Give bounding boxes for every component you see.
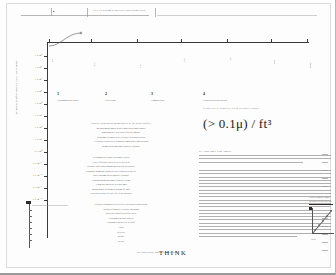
inset-chart-subtitle: Measured across nine lots xyxy=(309,200,332,202)
edge-mark xyxy=(322,242,328,243)
x-tick xyxy=(181,39,182,43)
annotation-line: Process equipment selected for low parti… xyxy=(47,203,195,206)
body-paragraph-1: IT AND NOT THE TRUE xyxy=(199,150,331,165)
tick-marker-c xyxy=(155,8,156,17)
x-tick xyxy=(227,39,228,43)
y-tick-label: 1 × 10² xyxy=(19,126,42,129)
x-tick-label: 0.5 xyxy=(93,62,96,66)
annotation-line: Sampling rate: one cubic foot per minute xyxy=(47,131,195,134)
callout-caption: Filter stage xyxy=(105,99,116,102)
annotation-line: Pressure differential maintained across … xyxy=(31,165,191,168)
callout-caption: Contamination source xyxy=(57,99,79,102)
y-tick-label: 1 × 10⁰ xyxy=(19,150,42,153)
callout-number: 1 xyxy=(57,91,59,96)
mini-axis-baseline xyxy=(32,205,68,206)
inset-chart-title: Yield vs. particle count xyxy=(309,196,329,198)
chart-curve-marker xyxy=(47,30,107,48)
annotation-line: Readings averaged over a twenty-four hou… xyxy=(47,136,195,139)
x-tick-label: 1000 xyxy=(309,62,312,68)
x-tick-label: 0.1 xyxy=(51,58,54,62)
y-tick-label: 1 × 10³ xyxy=(19,114,42,117)
y-tick-label: 1 × 10⁷ xyxy=(19,66,42,69)
edge-mark xyxy=(322,234,328,235)
mini-axis-tick xyxy=(29,222,32,223)
annotation-line: Alarm threshold set at class limit xyxy=(31,183,191,186)
y-tick xyxy=(44,56,48,57)
callout-number: 4 xyxy=(203,91,205,96)
top-caption: CLEAN ROOM PARTICLE DISTRIBUTION xyxy=(93,9,146,12)
mini-axis-tick xyxy=(29,228,32,229)
annotation-line: Materials qualified before entry xyxy=(47,212,195,215)
mini-axis-tick xyxy=(29,240,32,241)
inset-chart: Yield vs. particle count Measured across… xyxy=(307,200,336,242)
callout-caption: Laminar flow xyxy=(151,99,165,102)
x-tick-label: 1.0 xyxy=(139,64,142,68)
stagger-annotation-block: Air changes per hour at design velocity … xyxy=(31,156,191,195)
edge-mark xyxy=(322,178,328,179)
y-tick xyxy=(44,80,48,81)
annotation-line: Room operating under positive pressure xyxy=(47,145,195,148)
mini-axis-tick xyxy=(29,210,32,211)
callout-caption: Controlled work station xyxy=(203,99,227,102)
rule-top-left xyxy=(21,15,149,16)
tick-marker-a xyxy=(51,8,52,16)
annotation-line: Personnel garments laundered in a contro… xyxy=(31,170,191,173)
edge-mark xyxy=(322,250,328,251)
x-tick-label: 5.0 xyxy=(183,58,186,62)
center-annotation-block: Particle concentration measured at the w… xyxy=(47,122,195,148)
annotation-line: Training required for all staff xyxy=(47,221,195,224)
lower-annotation-block: Process equipment selected for low parti… xyxy=(47,203,195,243)
inset-data-line xyxy=(312,207,335,234)
headline-kicker: PARTICLE COUNT PER CUBIC FOOT xyxy=(203,107,259,110)
y-tick xyxy=(44,104,48,105)
edge-mark xyxy=(322,218,328,219)
annotation-line: Particle concentration measured at the w… xyxy=(47,122,195,125)
x-tick xyxy=(271,39,272,43)
y-tick-label: 1 × 10⁸ xyxy=(19,54,42,57)
rule-top-right xyxy=(157,15,317,16)
page-headline: (> 0.1μ) / ft³ xyxy=(203,116,272,132)
inset-x-axis-label: count xyxy=(311,238,316,240)
annotation-line: Filter efficiency rated at 99.97 per cen… xyxy=(31,161,191,164)
annotation-line: Measurements made with a light-scatterin… xyxy=(47,127,195,130)
document-page: CLEAN ROOM PARTICLE DISTRIBUTION ■ 0.1 0… xyxy=(0,0,336,275)
edge-mark xyxy=(322,170,328,171)
y-axis-title: Particles per cubic foot equal to or gre… xyxy=(15,61,17,114)
annotation-line: Records retained for the life of the pro… xyxy=(31,192,191,195)
body-lead: IT AND NOT THE TRUE xyxy=(199,150,331,153)
annotation-line: Report xyxy=(47,235,195,238)
annotation-line: Continuous monitoring of particle count xyxy=(31,179,191,182)
x-tick xyxy=(307,39,308,43)
x-tick-label: 10 xyxy=(229,57,232,60)
y-tick xyxy=(44,116,48,117)
annotation-line: Audit xyxy=(47,226,195,229)
y-tick xyxy=(44,68,48,69)
annotation-line: Air changes per hour at design velocity xyxy=(31,156,191,159)
y-tick-label: 1 × 10⁶ xyxy=(19,78,42,81)
x-tick xyxy=(137,39,138,43)
annotation-line: Surfaces finished to reduce shedding xyxy=(47,208,195,211)
y-tick xyxy=(44,92,48,93)
think-wordmark: THINK xyxy=(159,249,187,256)
tick-marker-b xyxy=(87,8,88,17)
callout-number: 3 xyxy=(151,91,153,96)
y-tick-label: 1 × 10⁴ xyxy=(19,102,42,105)
y-tick-label: 1 × 10¹ xyxy=(19,138,42,141)
mini-axis-tick xyxy=(29,216,32,217)
annotation-line: Review xyxy=(47,231,195,234)
page-sheet: CLEAN ROOM PARTICLE DISTRIBUTION ■ 0.1 0… xyxy=(6,3,331,268)
annotation-line: Cleaning schedule posted xyxy=(47,217,195,220)
annotation-line: Entry through an air-shower vestibule xyxy=(31,174,191,177)
edge-mark xyxy=(322,154,328,155)
y-tick xyxy=(44,152,48,153)
annotation-line: Maintenance performed during off shift xyxy=(31,188,191,191)
edge-mark xyxy=(322,186,328,187)
mini-axis-tick xyxy=(29,234,32,235)
annotation-line: Revise xyxy=(47,240,195,243)
y-tick-label: 1 × 10⁵ xyxy=(19,90,42,93)
edge-mark xyxy=(322,162,328,163)
edge-mark xyxy=(322,226,328,227)
y-tick xyxy=(44,200,48,201)
x-tick-label: 100 xyxy=(273,60,276,64)
callout-number: 2 xyxy=(105,91,107,96)
